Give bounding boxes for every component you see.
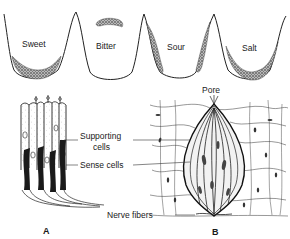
label-panel-a: A xyxy=(43,227,50,236)
bitter-receptor-area xyxy=(96,18,123,27)
panel-a-cells xyxy=(20,95,104,207)
panel-b-bud xyxy=(150,95,288,216)
label-sweet: Sweet xyxy=(22,40,46,49)
sour-receptor-area-left xyxy=(146,22,163,73)
sour-receptor-area-right xyxy=(196,22,210,72)
label-panel-b: B xyxy=(212,228,219,237)
label-nerve-fibers: Nerve fibers xyxy=(107,211,153,220)
label-sour: Sour xyxy=(167,43,185,52)
label-supporting-cells-line1: Supporting xyxy=(80,132,121,141)
diagram-drawing xyxy=(0,0,290,239)
label-sense-cells: Sense cells xyxy=(80,161,123,170)
label-bitter: Bitter xyxy=(96,42,116,51)
taste-diagram: Sweet Bitter Sour Salt Pore Supporting c… xyxy=(0,0,290,239)
label-salt: Salt xyxy=(242,44,257,53)
label-supporting-cells-line2: cells xyxy=(93,143,110,152)
label-pore: Pore xyxy=(202,86,220,95)
